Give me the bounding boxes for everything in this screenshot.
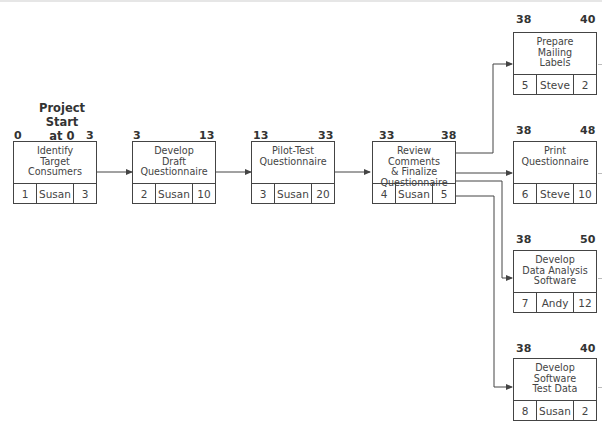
- task-resource: Susan: [156, 184, 193, 204]
- dependency-arrows: [0, 0, 602, 433]
- task-id: 1: [14, 184, 37, 204]
- task-duration: 2: [574, 401, 596, 421]
- task-resource: Andy: [537, 293, 574, 313]
- task-id: 6: [514, 184, 537, 204]
- node-8-early-finish: 40: [580, 342, 595, 355]
- task-id: 7: [514, 293, 537, 313]
- node-5-early-start: 38: [516, 13, 531, 26]
- task-name: Develop Draft Questionnaire: [133, 142, 215, 184]
- task-id: 8: [514, 401, 537, 421]
- node-5-early-finish: 40: [580, 13, 595, 26]
- offscreen-connector: [598, 64, 602, 65]
- node-6-early-finish: 48: [580, 124, 595, 137]
- task-node-3[interactable]: Pilot-Test Questionnaire 3 Susan 20: [251, 141, 335, 204]
- task-duration: 10: [574, 184, 596, 204]
- offscreen-connector: [598, 278, 602, 279]
- task-name: Review Comments & Finalize Questionnaire: [373, 142, 455, 184]
- task-node-4[interactable]: Review Comments & Finalize Questionnaire…: [372, 141, 456, 204]
- task-resource: Susan: [396, 184, 433, 204]
- offscreen-connector: [598, 173, 602, 174]
- task-name: Pilot-Test Questionnaire: [252, 142, 334, 184]
- task-node-7[interactable]: Develop Data Analysis Software 7 Andy 12: [513, 250, 597, 313]
- task-node-2[interactable]: Develop Draft Questionnaire 2 Susan 10: [132, 141, 216, 204]
- task-duration: 20: [312, 184, 334, 204]
- task-node-5[interactable]: Prepare Mailing Labels 5 Steve 2: [513, 32, 597, 95]
- task-id: 2: [133, 184, 156, 204]
- node-8-early-start: 38: [516, 342, 531, 355]
- node-7-early-finish: 50: [580, 233, 595, 246]
- task-duration: 2: [574, 75, 596, 95]
- task-id: 5: [514, 75, 537, 95]
- task-duration: 10: [193, 184, 215, 204]
- task-resource: Steve: [537, 184, 574, 204]
- task-resource: Susan: [537, 401, 574, 421]
- task-node-6[interactable]: Print Questionnaire 6 Steve 10: [513, 141, 597, 204]
- node-7-early-start: 38: [516, 233, 531, 246]
- task-duration: 3: [74, 184, 96, 204]
- arrow-4-to-8: [454, 196, 512, 387]
- task-name: Print Questionnaire: [514, 142, 596, 184]
- task-duration: 12: [574, 293, 596, 313]
- task-resource: Susan: [275, 184, 312, 204]
- task-name: Identify Target Consumers: [14, 142, 96, 184]
- offscreen-connector: [598, 387, 602, 388]
- task-node-8[interactable]: Develop Software Test Data 8 Susan 2: [513, 358, 597, 421]
- task-node-1[interactable]: Identify Target Consumers 1 Susan 3: [13, 141, 97, 204]
- node-6-early-start: 38: [516, 124, 531, 137]
- task-name: Develop Data Analysis Software: [514, 251, 596, 293]
- task-duration: 5: [433, 184, 455, 204]
- task-id: 3: [252, 184, 275, 204]
- task-resource: Susan: [37, 184, 74, 204]
- arrow-4-to-5: [454, 64, 512, 153]
- task-name: Prepare Mailing Labels: [514, 33, 596, 75]
- task-name: Develop Software Test Data: [514, 359, 596, 401]
- task-id: 4: [373, 184, 396, 204]
- task-resource: Steve: [537, 75, 574, 95]
